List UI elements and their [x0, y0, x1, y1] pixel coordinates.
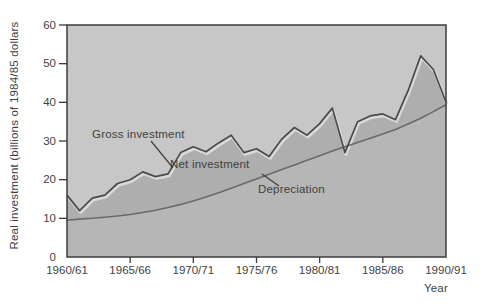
y-tick-label: 20	[26, 173, 56, 185]
y-tick-label: 0	[26, 251, 56, 263]
real-investment-chart-figure: Real investment (billions of 1984/85 dol…	[0, 0, 485, 307]
x-tick-label: 1980/81	[289, 264, 351, 276]
x-tick-label: 1985/86	[352, 264, 414, 276]
x-axis-title: Year	[408, 282, 448, 295]
y-tick-label: 60	[26, 19, 56, 31]
y-tick-label: 40	[26, 96, 56, 108]
x-tick-label: 1960/61	[36, 264, 98, 276]
x-tick-label: 1975/76	[226, 264, 288, 276]
x-tick-label: 1970/71	[162, 264, 224, 276]
annotation-gross-investment: Gross investment	[92, 128, 185, 141]
y-tick-label: 30	[26, 135, 56, 147]
annotation-net-investment: Net investment	[170, 158, 250, 171]
annotation-depreciation: Depreciation	[258, 183, 325, 196]
y-tick-label: 50	[26, 57, 56, 69]
x-tick-label: 1965/66	[99, 264, 161, 276]
chart-canvas	[0, 0, 485, 307]
y-tick-label: 10	[26, 212, 56, 224]
x-tick-label: 1990/91	[415, 264, 477, 276]
y-axis-label: Real investment (billions of 1984/85 dol…	[8, 16, 21, 256]
